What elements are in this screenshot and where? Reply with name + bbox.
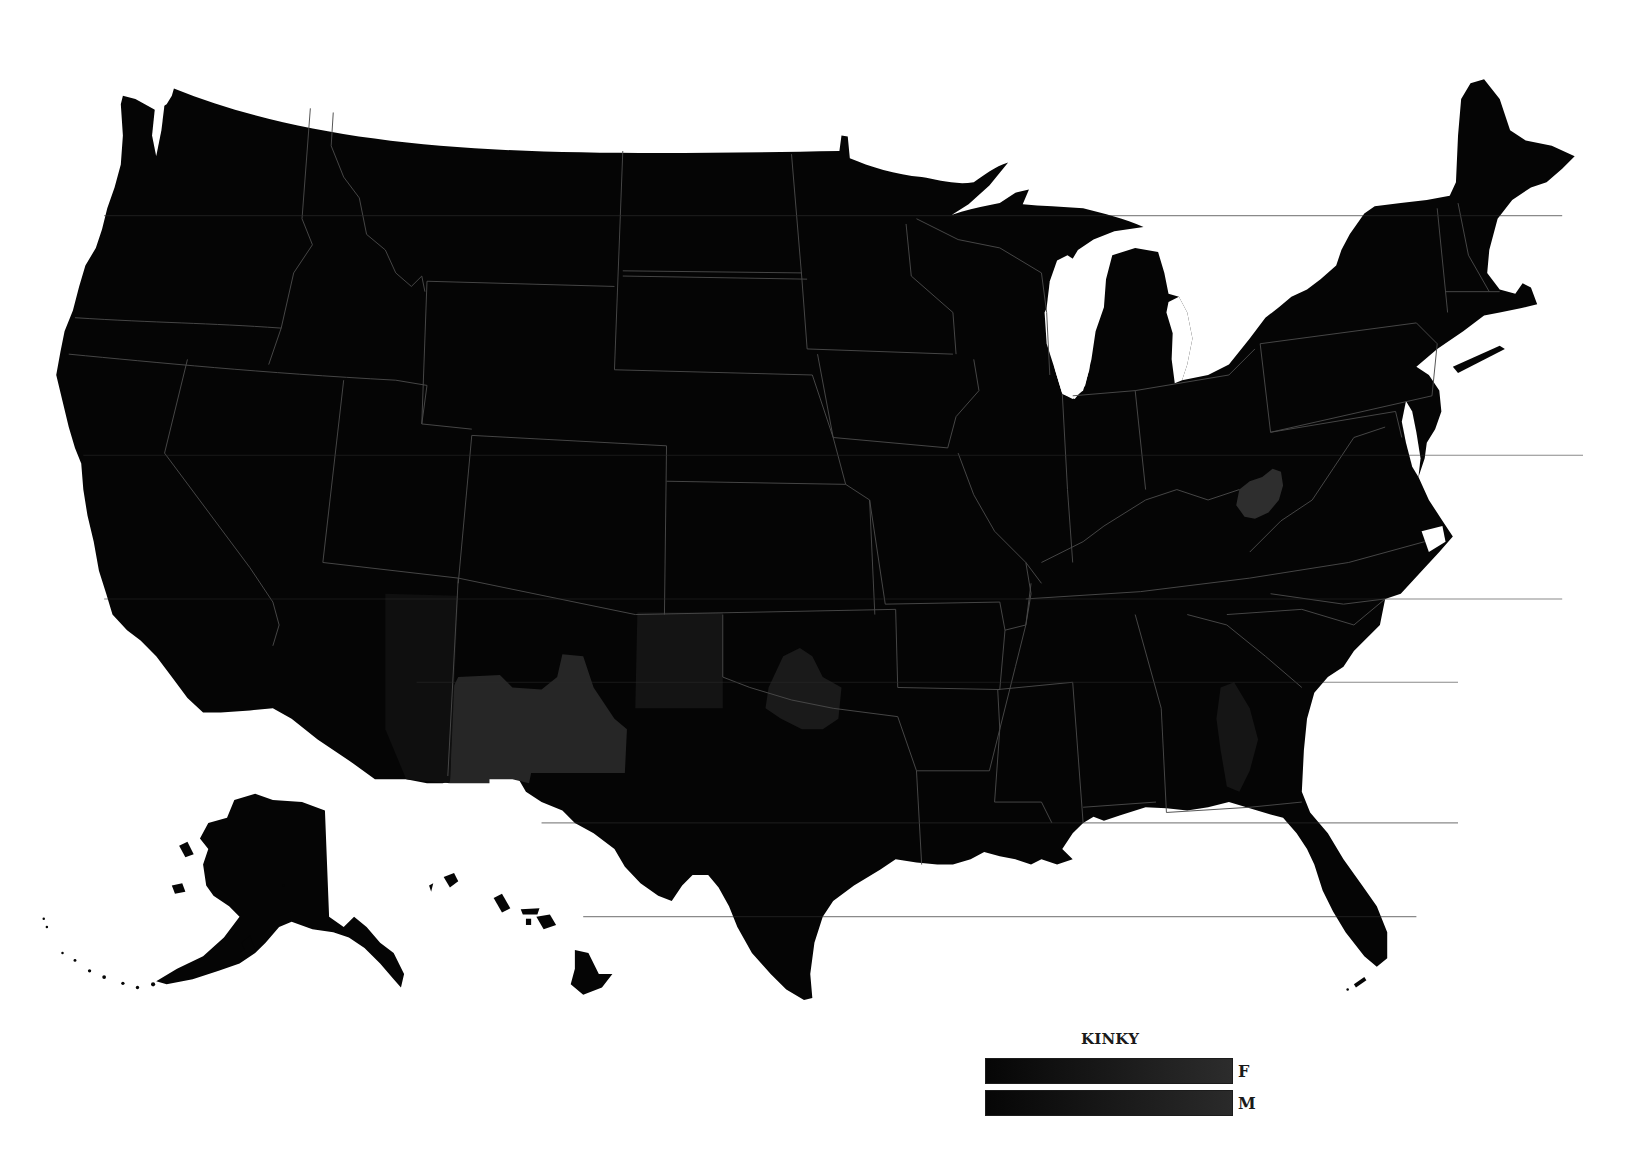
highlight-arizona-east (385, 594, 458, 784)
maui (536, 915, 556, 930)
molokai (521, 908, 540, 914)
oahu (494, 894, 511, 913)
legend-title: KINKY (985, 1030, 1235, 1048)
legend-label-f: F (1238, 1062, 1249, 1081)
legend-label-m: M (1238, 1094, 1256, 1113)
lanai (526, 919, 531, 925)
alaska-inset (42, 794, 404, 989)
kauai (444, 873, 459, 888)
big-island (571, 950, 613, 995)
legend-gradient-bar-m (985, 1090, 1233, 1116)
hawaii-inset (429, 873, 612, 995)
highlight-texas-panhandle (635, 612, 722, 708)
florida-keys (1346, 977, 1366, 991)
niihau (429, 883, 433, 891)
us-county-map (0, 0, 1633, 1176)
legend-gradient-bar-f (985, 1058, 1233, 1084)
alaska-landmass (156, 794, 404, 988)
map-legend: KINKY F M (985, 1030, 1265, 1130)
